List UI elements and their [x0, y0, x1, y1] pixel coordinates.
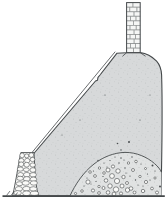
wall-stone — [24, 162, 29, 167]
dome-stone — [98, 185, 100, 187]
chimney-body — [127, 3, 141, 53]
dome-stone — [98, 167, 100, 169]
dome-stone — [106, 191, 110, 195]
rubble-speck — [142, 185, 143, 186]
rubble-speck — [95, 181, 96, 182]
rubble-speck — [149, 179, 150, 180]
dome-stone — [102, 187, 105, 190]
dome-stone — [154, 177, 156, 179]
grass-tuft-line — [7, 191, 11, 196]
rubble-speck — [135, 179, 136, 180]
rubble-speck — [86, 177, 87, 178]
rubble-speck — [140, 163, 141, 164]
wall-stone — [23, 186, 31, 191]
dome-stone — [106, 168, 110, 172]
dome-stone — [113, 187, 118, 192]
wall-stone — [30, 168, 36, 173]
dome-stone — [94, 175, 97, 178]
wall-stone — [30, 191, 38, 195]
rubble-speck — [106, 166, 107, 167]
rubble-speck — [150, 95, 151, 96]
dome-stone — [89, 171, 92, 174]
rubble-speck — [123, 159, 124, 160]
dome-stone — [122, 175, 125, 178]
rubble-speck — [124, 167, 125, 168]
dome-stone — [156, 191, 159, 194]
dome-stone — [104, 179, 108, 183]
wall-stone — [17, 167, 23, 171]
dome-stone — [139, 175, 141, 177]
dome-stone — [141, 189, 144, 192]
wall-stone — [24, 172, 31, 177]
dome-stone — [114, 178, 119, 183]
dome-stone — [120, 184, 124, 188]
dome-stone — [74, 192, 76, 194]
rubble-speck — [120, 149, 121, 150]
rubble-speck — [137, 184, 138, 185]
kiln-cross-section-figure: Cross-section illustration of a stippled… — [0, 0, 167, 204]
dome-stone — [127, 162, 129, 164]
rubble-speck — [117, 143, 119, 145]
mound-stipple-overlay — [20, 53, 162, 196]
retaining-wall-group — [13, 153, 39, 196]
rubble-speck — [154, 170, 155, 171]
dome-stone — [135, 160, 138, 163]
dome-stone — [98, 192, 101, 195]
dome-stone — [129, 187, 133, 191]
wall-stone — [20, 153, 25, 158]
rubble-speck — [128, 141, 130, 143]
wall-stone — [25, 154, 29, 158]
rubble-speck — [131, 156, 132, 157]
rubble-speck — [120, 157, 121, 158]
dome-stone — [111, 165, 114, 168]
rubble-speck — [93, 170, 94, 171]
rubble-speck — [83, 185, 84, 186]
dome-stone — [81, 190, 84, 193]
dome-stone — [116, 169, 120, 173]
rubble-speck — [114, 156, 115, 157]
rubble-speck — [102, 176, 103, 177]
rubble-speck — [125, 172, 126, 173]
wall-stone — [30, 181, 37, 185]
dome-stone — [110, 174, 115, 179]
rubble-speck — [109, 160, 110, 161]
rubble-speck — [139, 119, 140, 120]
rubble-speck — [104, 94, 105, 95]
wall-stone — [23, 168, 29, 172]
rubble-speck — [152, 165, 154, 167]
dome-stone — [151, 187, 154, 190]
rubble-speck — [103, 162, 104, 163]
wall-stone — [19, 162, 24, 167]
rubble-speck — [118, 162, 119, 163]
dome-stone — [133, 191, 136, 194]
wall-stone — [23, 191, 31, 196]
dome-stone — [86, 180, 90, 184]
dome-stone — [126, 182, 129, 185]
rubble-speck — [91, 184, 92, 185]
dome-stone — [91, 189, 94, 192]
rubble-speck — [80, 120, 81, 121]
dome-stone — [103, 172, 106, 175]
dome-stone — [145, 168, 147, 170]
wall-stone — [30, 157, 35, 161]
retaining-wall-stones — [14, 153, 39, 196]
wall-stone — [29, 153, 34, 158]
wall-stone — [30, 173, 37, 177]
dome-stone — [132, 169, 135, 172]
wall-stone — [30, 163, 35, 167]
rubble-speck — [97, 160, 98, 161]
chimney-group — [122, 3, 145, 57]
rubble-speck — [147, 173, 148, 174]
dome-stone — [119, 192, 122, 195]
rubble-speck — [159, 186, 161, 188]
wall-stone — [17, 176, 24, 180]
dome-stone — [144, 180, 147, 183]
wall-stone — [22, 181, 29, 186]
dome-stone — [108, 184, 112, 188]
wall-stone — [30, 187, 37, 191]
rubble-speck — [129, 175, 130, 176]
illustration-canvas: Cross-section illustration of a stippled… — [0, 0, 167, 204]
rubble-speck — [62, 135, 63, 136]
